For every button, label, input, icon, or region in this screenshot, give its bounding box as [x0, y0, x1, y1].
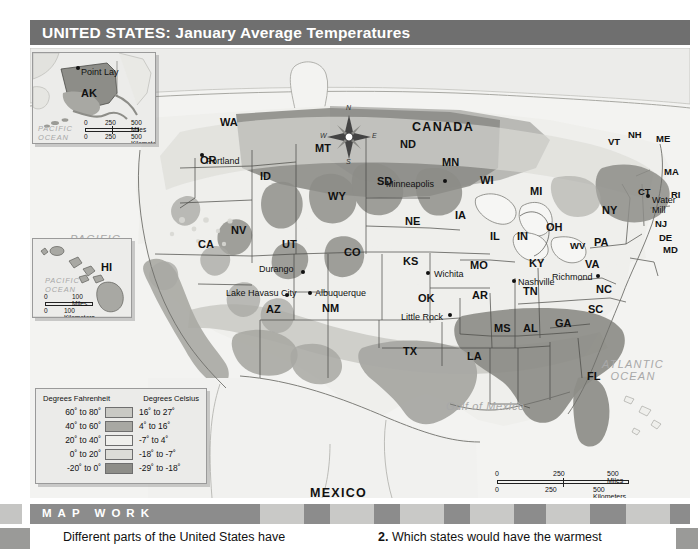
compass-south-label: S [346, 158, 351, 165]
banner-block [400, 504, 444, 524]
city-dot-portland [200, 153, 204, 157]
map-title-bar: UNITED STATES: January Average Temperatu… [30, 20, 690, 45]
city-dot-water-mill [646, 194, 650, 198]
legend-celsius-value: 4˚ to 16˚ [133, 421, 170, 431]
legend-color-swatch [105, 407, 133, 418]
city-dot-nashville [512, 279, 516, 283]
inset-map-alaska[interactable]: Point Lay AK PACIFIC OCEAN 0 250 500 Mil… [32, 52, 156, 144]
legend-row: 60˚ to 80˚ 16˚ to 27˚ [43, 405, 199, 419]
legend-color-swatch [105, 421, 133, 432]
city-dot-durango [301, 270, 305, 274]
scale-ak-km-zero: 0 [84, 133, 88, 140]
compass-north-label: N [346, 104, 351, 111]
legend-fahrenheit-value: -20˚ to 0˚ [43, 463, 105, 473]
scale-hi-km-end: 100 Kilometers [64, 307, 95, 318]
scale-hi-mi-end: 100 Miles [72, 293, 87, 307]
map-work-question-left: Different parts of the United States hav… [63, 530, 363, 544]
question-number: 2. [378, 530, 388, 544]
map-work-question-right: 2. Which states would have the warmest [378, 530, 678, 544]
banner-block [626, 504, 670, 524]
legend-celsius-value: 16˚ to 27˚ [133, 407, 175, 417]
legend-fahrenheit-value: 20˚ to 40˚ [43, 435, 105, 445]
map-legend: Degrees Fahrenheit Degrees Celsius 60˚ t… [35, 388, 207, 484]
banner-block [260, 504, 304, 524]
legend-header-fahrenheit: Degrees Fahrenheit [43, 394, 110, 403]
legend-celsius-value: -7˚ to 4˚ [133, 435, 168, 445]
compass-west-label: W [320, 132, 327, 139]
banner-block [470, 504, 514, 524]
compass-rose: N S E W [318, 106, 380, 168]
map-work-banner: MAP WORK [30, 504, 690, 524]
map-work-label: MAP WORK [42, 507, 155, 519]
city-dot-minneapolis [443, 179, 447, 183]
page-title: UNITED STATES: January Average Temperatu… [42, 24, 410, 42]
banner-block [546, 504, 590, 524]
banner-block [330, 504, 374, 524]
city-dot-little-rock [448, 313, 452, 317]
scale-ak-mi-mid: 250 [105, 119, 116, 126]
scale-ak-km-end: 500 Kilometers [131, 133, 156, 144]
scale-hi-km-zero: 0 [44, 307, 48, 314]
legend-row: 20˚ to 40˚ -7˚ to 4˚ [43, 433, 199, 447]
city-dot-albuquerque [308, 291, 312, 295]
scale-main-km-mid: 250 [545, 486, 557, 493]
legend-row: -20˚ to 0˚ -29˚ to -18˚ [43, 461, 199, 475]
left-edge-bar-2 [0, 528, 30, 549]
legend-header-celsius: Degrees Celsius [143, 394, 199, 403]
legend-fahrenheit-value: 40˚ to 60˚ [43, 421, 105, 431]
scale-ak-km-mid: 250 [105, 133, 116, 140]
inset-map-hawaii[interactable]: HI PACIFIC OCEAN 0 100 Miles 0 100 Kilom… [32, 238, 132, 318]
scale-ak-mi-end: 500 Miles [131, 119, 146, 133]
legend-fahrenheit-value: 60˚ to 80˚ [43, 407, 105, 417]
city-dot-richmond [596, 274, 600, 278]
city-dot-wichita [426, 271, 430, 275]
scale-main-mi-mid: 250 [553, 470, 565, 477]
right-edge-bar [676, 528, 698, 549]
compass-east-label: E [372, 132, 377, 139]
legend-headers: Degrees Fahrenheit Degrees Celsius [43, 394, 199, 403]
city-dot-lake-havasu-city [285, 293, 289, 297]
scale-main-mi-zero: 0 [495, 470, 499, 477]
scale-hi-mi-zero: 0 [44, 293, 48, 300]
map-page: UNITED STATES: January Average Temperatu… [0, 0, 698, 549]
legend-color-swatch [105, 463, 133, 474]
left-edge-bar [0, 504, 22, 524]
scale-main-km-zero: 0 [495, 486, 499, 493]
legend-celsius-value: -29˚ to -18˚ [133, 463, 180, 473]
legend-color-swatch [105, 449, 133, 460]
scale-main-km-end: 500 Kilometers [593, 486, 626, 498]
legend-color-swatch [105, 435, 133, 446]
legend-fahrenheit-value: 0˚ to 20˚ [43, 449, 105, 459]
scale-ak-mi-zero: 0 [84, 119, 88, 126]
question-text: Which states would have the warmest [388, 530, 601, 544]
city-dot-point-lay [76, 66, 80, 70]
legend-row: 40˚ to 60˚ 4˚ to 16˚ [43, 419, 199, 433]
legend-celsius-value: -18˚ to -7˚ [133, 449, 176, 459]
legend-row: 0˚ to 20˚ -18˚ to -7˚ [43, 447, 199, 461]
scale-main-mi-end: 500 Miles [607, 470, 623, 484]
